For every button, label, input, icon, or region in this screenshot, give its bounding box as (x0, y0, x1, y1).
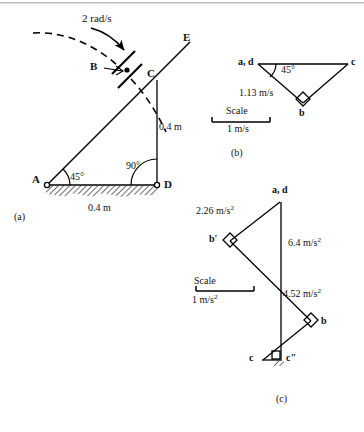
pivot-A (44, 182, 49, 187)
velocity-edge-b-c (303, 64, 348, 103)
right-angle-marker-bprime (223, 233, 237, 247)
label-point-E: E (183, 32, 190, 43)
dashed-motion-path-upper (33, 33, 118, 66)
label-point-B: B (90, 61, 97, 72)
accel-base-hatching (274, 361, 284, 366)
pin-joint-BC (124, 67, 129, 72)
label-accel-ad-bprime-text: 2.26 m/s (196, 205, 230, 216)
label-vertex-cdd: c" (286, 353, 296, 363)
label-scale-c: Scale (194, 276, 216, 286)
label-vertex-bprime: b' (209, 234, 217, 244)
label-vertex-b-b: b (299, 108, 305, 118)
slider-block-stroke-1 (112, 51, 135, 74)
caption-panel-c: (c) (276, 394, 287, 404)
label-accel-ad-c: 6.4 m/s2 (288, 237, 321, 248)
slider-block-stroke-2 (118, 64, 142, 88)
label-vertex-ad-b: a, d (238, 57, 254, 67)
angle-arc-45-at-A (63, 169, 70, 185)
label-angle-90-D: 90° (126, 161, 140, 171)
label-accel-b-exponent: 2 (317, 287, 321, 295)
accel-edge-ad-bprime (230, 202, 280, 241)
label-point-A: A (32, 174, 40, 185)
label-vertex-ad-c: a, d (272, 185, 288, 195)
ground-hatching (46, 186, 158, 197)
label-vertex-b-c: b (321, 316, 327, 326)
label-accel-ad-c-exponent: 2 (317, 236, 321, 244)
label-angle-45-velocity: 45° (281, 65, 295, 75)
pivot-D (154, 182, 159, 187)
label-point-C: C (147, 68, 155, 79)
label-vertex-c-b: c (351, 57, 355, 67)
label-scale-value-c-exponent: 2 (214, 293, 218, 301)
engineering-figure (0, 0, 364, 432)
panel-a-mechanism (33, 28, 190, 197)
label-point-D: D (164, 179, 172, 190)
label-scale-value-b: 1 m/s (227, 124, 249, 134)
label-accel-ad-c-text: 6.4 m/s (288, 237, 317, 248)
link-AE (47, 42, 190, 185)
label-scale-b: Scale (226, 106, 248, 116)
label-velocity-ab: 1.13 m/s (239, 88, 273, 98)
label-angular-velocity: 2 rad/s (82, 13, 112, 24)
label-length-CD: 0.4 m (159, 122, 182, 132)
label-angle-45-A: 45° (70, 172, 84, 182)
label-length-AD: 0.4 m (88, 203, 111, 213)
rotation-arrow (91, 28, 124, 50)
label-accel-b: 4.52 m/s2 (283, 288, 321, 299)
label-accel-ad-bprime: 2.26 m/s2 (196, 205, 234, 216)
label-scale-value-c-text: 1 m/s (192, 294, 214, 305)
label-accel-ad-bprime-exponent: 2 (230, 204, 234, 212)
caption-panel-b: (b) (231, 148, 243, 158)
caption-panel-a: (a) (14, 212, 25, 222)
label-vertex-c-c: c (249, 353, 253, 363)
label-scale-value-c: 1 m/s2 (192, 294, 217, 305)
accel-edge-bprime-b (230, 241, 311, 321)
label-accel-b-text: 4.52 m/s (283, 288, 317, 299)
